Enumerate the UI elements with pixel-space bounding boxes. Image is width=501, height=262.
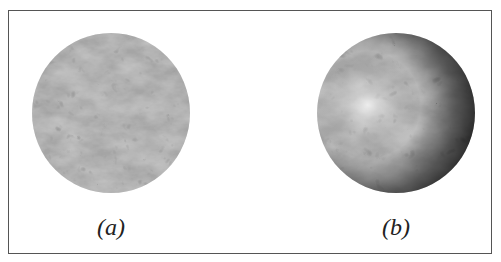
marble-texture-flat — [32, 33, 190, 193]
panel-label-b: (b) — [356, 214, 436, 241]
marble-texture-shaded — [317, 33, 475, 193]
textured-sphere-shaded — [317, 33, 475, 193]
panel-label-a: (a) — [71, 214, 151, 241]
textured-disc-flat — [32, 33, 190, 193]
